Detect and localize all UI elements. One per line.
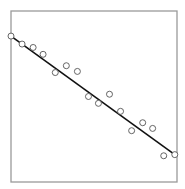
data-point bbox=[95, 100, 101, 106]
regression-line bbox=[11, 36, 175, 155]
data-point bbox=[52, 70, 58, 76]
data-point bbox=[161, 153, 167, 159]
scatter-chart bbox=[0, 0, 185, 189]
data-point bbox=[172, 152, 178, 158]
data-point bbox=[118, 108, 124, 114]
data-point bbox=[63, 63, 69, 69]
data-point bbox=[8, 33, 14, 39]
data-point bbox=[150, 125, 156, 131]
data-point bbox=[74, 68, 80, 74]
data-point bbox=[19, 41, 25, 47]
data-point bbox=[106, 91, 112, 97]
fit-line-layer bbox=[11, 36, 175, 155]
data-point bbox=[40, 51, 46, 57]
data-point bbox=[85, 94, 91, 100]
data-point bbox=[129, 128, 135, 134]
data-point bbox=[30, 44, 36, 50]
data-point bbox=[140, 120, 146, 126]
